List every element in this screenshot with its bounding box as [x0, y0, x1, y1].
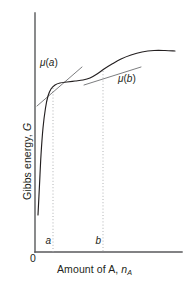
mu-a-close-paren: ): [54, 57, 57, 68]
gibbs-energy-curve-group: [38, 50, 175, 215]
origin-label: 0: [30, 253, 36, 264]
axes-group: [35, 13, 182, 252]
tick-label-a: a: [46, 236, 52, 246]
y-axis-title-symbol: G: [21, 123, 33, 131]
x-axis-title-subscript: A: [127, 268, 132, 277]
y-axis-title: Gibbs energy, G: [22, 123, 33, 200]
mu-b-annotation: μ(b): [118, 74, 136, 84]
mu-b-close-paren: ): [132, 73, 135, 84]
x-axis-title: Amount of A, nA: [57, 264, 132, 275]
tick-label-b: b: [96, 236, 102, 246]
gibbs-energy-figure: Gibbs energy, G Amount of A, nA 0 a b μ(…: [0, 0, 188, 286]
gibbs-energy-curve: [38, 50, 175, 215]
x-axis-title-text: Amount of A,: [57, 263, 121, 275]
guide-lines-group: [53, 71, 103, 252]
tangent-line-at-a: [37, 67, 82, 106]
mu-a-annotation: μ(a): [40, 58, 58, 68]
y-axis-title-text: Gibbs energy,: [21, 131, 33, 200]
